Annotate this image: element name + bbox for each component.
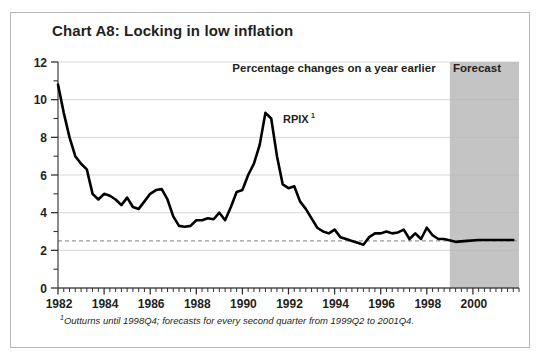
- x-axis-tick-labels: 1982198419861988199019921994199619982000: [46, 297, 488, 311]
- forecast-band: [450, 62, 519, 288]
- x-tick-label: 2000: [461, 297, 488, 311]
- x-tick-label: 1988: [184, 297, 211, 311]
- y-tick-label: 2: [40, 244, 47, 258]
- axis-ticks: [51, 62, 519, 295]
- y-axis-tick-labels: 024681012: [34, 56, 48, 296]
- y-tick-label: 6: [40, 169, 47, 183]
- x-tick-label: 1990: [230, 297, 257, 311]
- footnote-text: Outturns until 1998Q4; forecasts for eve…: [64, 315, 414, 326]
- x-tick-label: 1992: [276, 297, 303, 311]
- x-tick-label: 1994: [322, 297, 349, 311]
- x-tick-label: 1986: [138, 297, 165, 311]
- chart-footnote: 1Outturns until 1998Q4; forecasts for ev…: [60, 314, 414, 326]
- y-tick-label: 8: [40, 131, 47, 145]
- x-tick-label: 1998: [414, 297, 441, 311]
- series-annotation-rpix: RPIX: [283, 113, 309, 125]
- y-tick-label: 12: [34, 56, 48, 70]
- x-tick-label: 1984: [92, 297, 119, 311]
- y-tick-label: 10: [34, 93, 48, 107]
- forecast-band-label: Forecast: [453, 62, 501, 74]
- chart-figure: Chart A8: Locking in low inflation 02468…: [0, 0, 541, 361]
- series-annotation-footnote-marker: 1: [311, 112, 315, 119]
- rpix-series-line: [58, 85, 513, 245]
- x-tick-label: 1982: [46, 297, 73, 311]
- x-tick-label: 1996: [368, 297, 395, 311]
- y-tick-label: 0: [40, 282, 47, 296]
- chart-plot: 024681012 198219841986198819901992199419…: [0, 0, 541, 361]
- y-tick-label: 4: [40, 206, 47, 220]
- chart-subtitle: Percentage changes on a year earlier: [232, 62, 436, 74]
